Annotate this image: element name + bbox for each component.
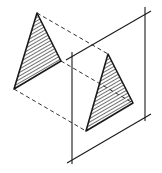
- source-triangle: [14, 13, 61, 89]
- plane-top-edge: [66, 11, 151, 60]
- projected-triangle: [86, 54, 133, 131]
- projection-diagram: [0, 0, 162, 173]
- diagram-canvas: [0, 0, 162, 173]
- projection-line: [14, 89, 86, 131]
- plane-bottom-edge: [67, 114, 151, 163]
